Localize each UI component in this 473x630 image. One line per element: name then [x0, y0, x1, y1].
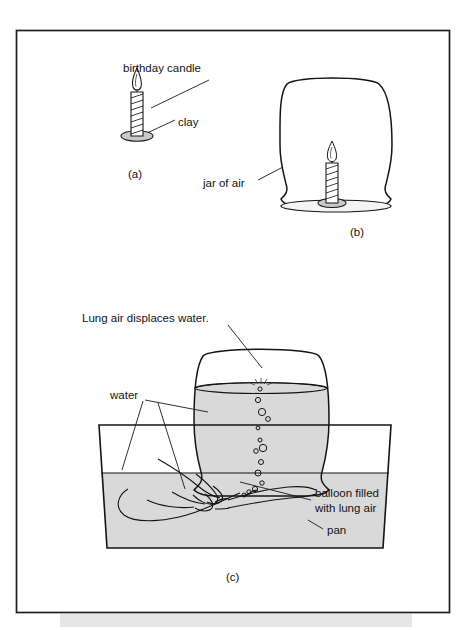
label-water: water [109, 389, 138, 401]
science-figure: birthday candle clay (a) jar of air (b) … [0, 0, 473, 630]
label-birthday-candle: birthday candle [123, 62, 201, 74]
panel-label-c: (c) [226, 571, 240, 583]
panel-label-b: (b) [350, 226, 364, 238]
label-balloon-line2: with lung air [314, 502, 377, 514]
figure-root: birthday candle clay (a) jar of air (b) … [0, 0, 473, 630]
label-clay: clay [178, 116, 199, 128]
label-pan: pan [327, 524, 346, 536]
panel-label-a: (a) [128, 168, 142, 180]
label-jar-of-air: jar of air [202, 177, 245, 189]
label-lung-air-displaces-water: Lung air displaces water. [82, 312, 209, 324]
jar-water-fill [190, 388, 335, 503]
bottom-strip [60, 614, 412, 627]
label-balloon-line1: balloon filled [315, 487, 379, 499]
